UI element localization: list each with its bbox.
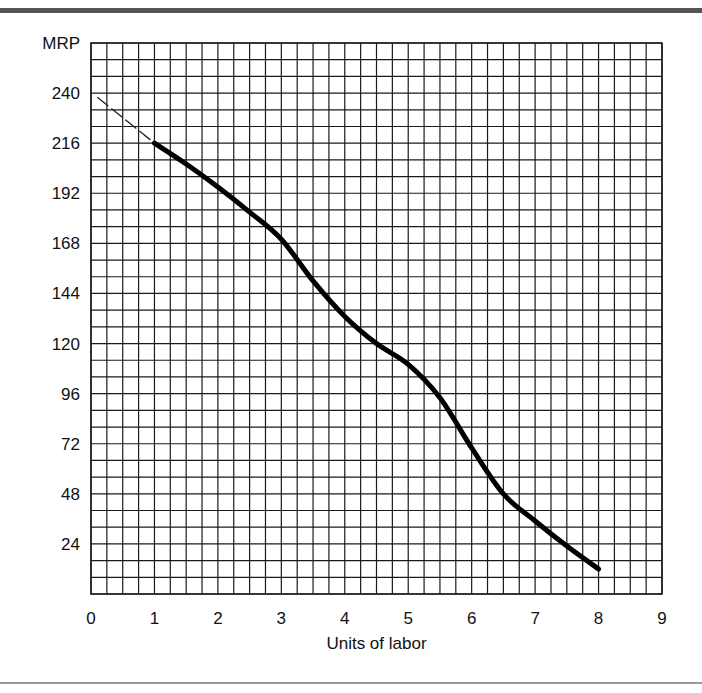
x-tick-label: 4 [340, 609, 349, 628]
y-tick-label: 240 [52, 84, 80, 103]
y-tick-label: 72 [61, 435, 80, 454]
y-tick-label: 120 [52, 335, 80, 354]
y-tick-labels: 24487296120144168192216240 [52, 84, 80, 554]
series-group [97, 97, 598, 569]
x-tick-label: 9 [657, 609, 666, 628]
y-tick-label: 144 [52, 284, 80, 303]
x-tick-label: 8 [594, 609, 603, 628]
dashed-extension-line [97, 97, 154, 143]
y-axis-title: MRP [42, 34, 80, 53]
chart: MRP Units of labor 244872961201441681922… [0, 0, 702, 693]
y-tick-label: 48 [61, 485, 80, 504]
y-tick-label: 216 [52, 134, 80, 153]
x-tick-label: 2 [213, 609, 222, 628]
x-tick-label: 5 [403, 609, 412, 628]
x-tick-label: 1 [150, 609, 159, 628]
x-tick-labels: 0123456789 [86, 609, 666, 628]
x-axis-title: Units of labor [326, 634, 426, 653]
y-tick-label: 96 [61, 385, 80, 404]
y-tick-label: 168 [52, 234, 80, 253]
top-border-rule [0, 8, 702, 13]
x-tick-label: 7 [530, 609, 539, 628]
y-tick-label: 24 [61, 535, 80, 554]
x-tick-label: 6 [467, 609, 476, 628]
grid [91, 43, 662, 594]
y-tick-label: 192 [52, 184, 80, 203]
x-tick-label: 3 [277, 609, 286, 628]
x-tick-label: 0 [86, 609, 95, 628]
